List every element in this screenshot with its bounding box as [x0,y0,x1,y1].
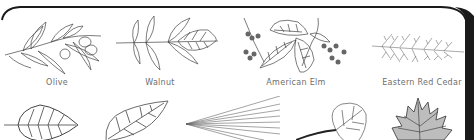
willow-oak-leaf-icon [104,99,170,140]
maple-leaf-icon [390,96,454,140]
pine-needles-icon [184,96,284,140]
birch-leaf-icon [4,101,80,140]
leaf-label-olive: Olive [46,78,68,87]
olive-branch-icon [3,18,108,78]
eastern-red-cedar-sprig-icon [368,28,468,70]
american-elm-branch-icon [240,12,352,76]
aspen-leaf-icon [296,100,376,140]
leaf-label-eastern-red-cedar: Eastern Red Cedar [382,78,462,87]
walnut-leaf-icon [112,14,222,74]
leaf-label-american-elm: American Elm [266,78,325,87]
leaf-label-walnut: Walnut [145,78,175,87]
